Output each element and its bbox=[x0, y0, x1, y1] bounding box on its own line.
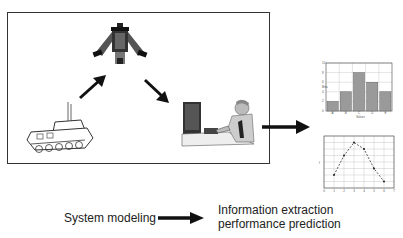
bar-chart-ylabel: Bins bbox=[322, 85, 328, 89]
svg-text:2: 2 bbox=[322, 99, 324, 103]
bar-chart-xlabel: Values bbox=[356, 115, 365, 119]
svg-text:1: 1 bbox=[333, 189, 335, 193]
svg-text:2: 2 bbox=[343, 189, 345, 193]
armored-vehicle-icon bbox=[25, 100, 95, 158]
arrow-vehicle-to-sensor bbox=[78, 74, 108, 100]
svg-text:5: 5 bbox=[373, 189, 375, 193]
legend-arrow bbox=[158, 211, 206, 225]
arrow-sensor-to-analyst bbox=[143, 78, 171, 104]
svg-text:E: E bbox=[384, 111, 386, 115]
svg-text:4: 4 bbox=[363, 189, 365, 193]
line-chart: f 01234567 bbox=[318, 134, 398, 194]
arrow-to-performance-charts bbox=[262, 118, 312, 136]
svg-text:0: 0 bbox=[323, 189, 325, 193]
svg-text:8: 8 bbox=[322, 71, 324, 75]
bar-A bbox=[327, 101, 338, 111]
svg-text:A: A bbox=[332, 111, 334, 115]
line-point bbox=[343, 155, 345, 157]
svg-text:7: 7 bbox=[393, 189, 395, 193]
svg-text:0: 0 bbox=[322, 109, 324, 113]
line-point bbox=[373, 168, 375, 170]
reconnaissance-aircraft-icon bbox=[90, 22, 150, 72]
bar-C bbox=[353, 73, 364, 111]
bar-chart: Bins 0246810 ABCDE Values bbox=[318, 60, 398, 116]
svg-text:3: 3 bbox=[353, 189, 355, 193]
line-point bbox=[363, 148, 365, 150]
line-chart-ylabel: f bbox=[319, 161, 320, 165]
line-point bbox=[333, 174, 335, 176]
svg-text:B: B bbox=[345, 111, 347, 115]
line-point bbox=[353, 142, 355, 144]
svg-text:D: D bbox=[371, 111, 374, 115]
performance-prediction-line1: Information extraction bbox=[218, 203, 341, 217]
line-point bbox=[383, 181, 385, 183]
svg-text:4: 4 bbox=[322, 90, 324, 94]
svg-text:6: 6 bbox=[322, 80, 324, 84]
svg-text:6: 6 bbox=[383, 189, 385, 193]
bar-D bbox=[367, 82, 378, 111]
performance-prediction-label: Information extraction performance predi… bbox=[218, 203, 341, 231]
performance-prediction-line2: performance prediction bbox=[218, 217, 341, 231]
image-analyst-workstation-icon bbox=[182, 98, 256, 150]
bar-E bbox=[380, 92, 391, 111]
svg-text:10: 10 bbox=[322, 61, 326, 65]
bar-B bbox=[340, 92, 351, 111]
system-modeling-label: System modeling bbox=[64, 211, 156, 225]
